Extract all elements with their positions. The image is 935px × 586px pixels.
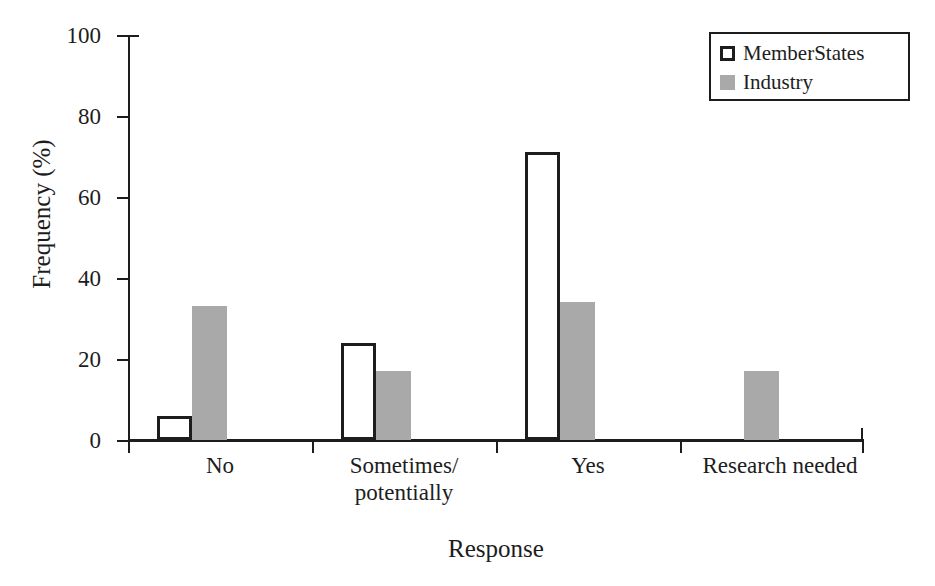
x-label-sometimes: Sometimes/ potentially <box>334 452 474 506</box>
bar-chart: 0 20 40 60 80 100 Frequency (%) No Somet… <box>0 0 935 586</box>
x-tick-0 <box>128 441 130 453</box>
bar-industry-yes <box>560 302 595 440</box>
x-tick-1 <box>312 441 314 453</box>
y-tick-label-20: 20 <box>45 348 101 371</box>
legend-swatch-filled-icon <box>720 75 735 90</box>
x-label-sometimes-line2: potentially <box>334 479 474 506</box>
y-tick-80 <box>117 116 128 118</box>
y-tick-label-100: 100 <box>45 24 101 47</box>
x-label-research-needed: Research needed <box>690 452 870 479</box>
x-tick-2 <box>496 441 498 453</box>
x-tick-3 <box>680 441 682 453</box>
y-tick-60 <box>117 197 128 199</box>
x-axis-title: Response <box>128 535 864 563</box>
x-label-no: No <box>150 452 290 479</box>
bar-industry-sometimes <box>376 371 411 440</box>
y-tick-label-0: 0 <box>45 429 101 452</box>
bar-memberstates-sometimes <box>341 343 376 440</box>
bar-memberstates-no <box>157 416 192 440</box>
x-label-yes: Yes <box>518 452 658 479</box>
x-label-sometimes-line1: Sometimes/ <box>334 452 474 479</box>
y-tick-40 <box>117 278 128 280</box>
legend-label-memberstates: MemberStates <box>743 43 864 64</box>
x-label-yes-line1: Yes <box>518 452 658 479</box>
y-tick-20 <box>117 359 128 361</box>
legend-item-industry: Industry <box>720 68 908 97</box>
legend-item-memberstates: MemberStates <box>720 39 908 68</box>
bar-industry-research-needed <box>744 371 779 440</box>
bar-industry-no <box>192 306 227 440</box>
legend-swatch-open-icon <box>720 46 735 61</box>
bar-memberstates-yes <box>525 152 560 440</box>
y-axis-title: Frequency (%) <box>28 94 56 334</box>
y-tick-0 <box>117 440 128 442</box>
legend-label-industry: Industry <box>743 72 813 93</box>
x-label-research-needed-line1: Research needed <box>690 452 870 479</box>
x-label-no-line1: No <box>150 452 290 479</box>
y-tick-100 <box>117 35 128 37</box>
legend: MemberStates Industry <box>709 32 910 101</box>
